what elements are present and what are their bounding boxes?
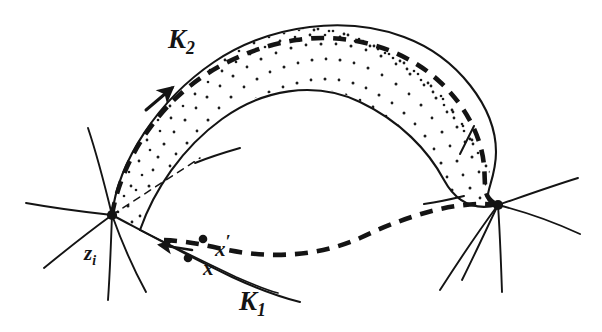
label-x: x xyxy=(203,258,214,279)
singular-point-zi xyxy=(26,128,146,300)
diagram-svg xyxy=(0,0,602,332)
inner-tick-marks xyxy=(195,126,474,204)
label-k2-subscript: 2 xyxy=(186,38,195,58)
direction-arrow-upper xyxy=(146,88,172,110)
point-x xyxy=(184,254,193,263)
stippled-annulus-band xyxy=(117,27,494,245)
node-dot-right xyxy=(493,200,503,210)
label-zi: zi xyxy=(84,243,96,268)
node-dot-zi xyxy=(107,210,117,220)
label-zi-letter: z xyxy=(84,241,92,265)
label-k2: K2 xyxy=(168,26,195,58)
label-zi-subscript: i xyxy=(92,253,96,268)
label-x-letter: x xyxy=(203,256,214,280)
figure-canvas: K2 K1 zi x′ x xyxy=(0,0,602,332)
singular-point-right xyxy=(440,178,580,292)
label-k1-subscript: 1 xyxy=(257,300,266,320)
thick-dashed-core-curve xyxy=(112,38,498,255)
label-k2-letter: K xyxy=(168,24,186,54)
label-prime-mark: ′ xyxy=(226,232,231,252)
label-k1: K1 xyxy=(239,288,266,320)
label-x-prime-letter: x xyxy=(215,237,226,261)
label-k1-letter: K xyxy=(239,286,257,316)
label-x-prime: x′ xyxy=(215,234,231,260)
point-x-prime xyxy=(199,235,208,244)
